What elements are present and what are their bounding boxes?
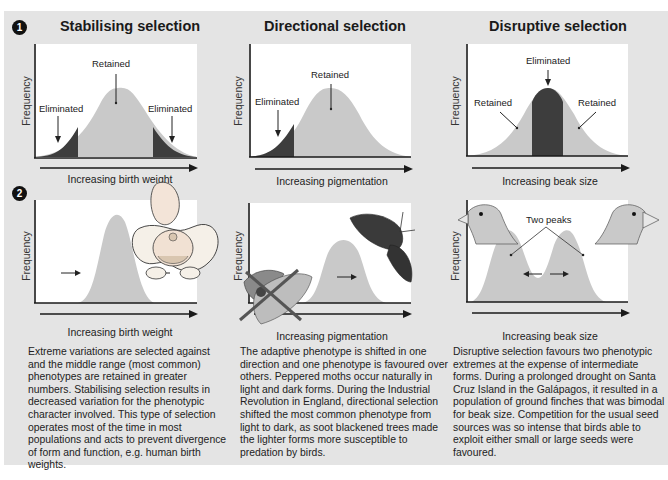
- ylabel-stabilising-bottom: Frequency: [20, 226, 32, 286]
- description-disruptive: Disruptive selection favours two phenoty…: [453, 346, 665, 459]
- label-retained-right: Retained: [578, 97, 616, 108]
- label-eliminated-right: Eliminated: [148, 103, 192, 114]
- description-directional: The adaptive phenotype is shifted in one…: [240, 346, 448, 459]
- label-eliminated: Eliminated: [255, 96, 299, 107]
- label-eliminated: Eliminated: [526, 55, 570, 66]
- title-disruptive: Disruptive selection: [468, 18, 648, 34]
- small-beak-finch-icon: [456, 202, 516, 247]
- xlabel-disruptive-bottom: Increasing beak size: [470, 330, 630, 342]
- label-retained: Retained: [92, 58, 130, 69]
- disruptive-top-curve: Eliminated Retained Retained: [466, 44, 636, 184]
- stabilising-top-curve: Retained Eliminated Eliminated: [34, 44, 204, 184]
- xlabel-directional-top: Increasing pigmentation: [252, 175, 412, 187]
- label-two-peaks: Two peaks: [526, 214, 572, 225]
- ylabel-directional-bottom: Frequency: [232, 226, 244, 286]
- xlabel-disruptive-top: Increasing beak size: [470, 175, 630, 187]
- directional-top-curve: Retained Eliminated: [249, 44, 419, 184]
- ylabel-disruptive-top: Frequency: [449, 71, 461, 131]
- xlabel-directional-bottom: Increasing pigmentation: [252, 330, 412, 342]
- title-directional: Directional selection: [235, 18, 435, 34]
- label-retained-left: Retained: [474, 97, 512, 108]
- dark-moth-illustration: [345, 210, 425, 290]
- xlabel-stabilising-bottom: Increasing birth weight: [40, 326, 200, 338]
- step-badge-2: 2: [12, 186, 27, 201]
- light-moth-crossed-illustration: [236, 262, 316, 332]
- large-beak-finch-icon: [597, 202, 667, 247]
- title-stabilising: Stabilising selection: [40, 18, 220, 34]
- label-eliminated-left: Eliminated: [39, 103, 83, 114]
- step-badge-1: 1: [12, 20, 27, 35]
- description-stabilising: Extreme variations are selected against …: [28, 346, 228, 472]
- ylabel-directional-top: Frequency: [232, 71, 244, 131]
- ylabel-disruptive-bottom: Frequency: [449, 226, 461, 286]
- baby-in-pelvis-illustration: [128, 178, 224, 288]
- ylabel-stabilising-top: Frequency: [20, 71, 32, 131]
- label-retained: Retained: [311, 69, 349, 80]
